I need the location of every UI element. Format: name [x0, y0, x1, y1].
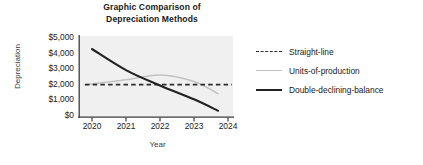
legend-item-double-declining-balance: Double-declining-balance [256, 82, 421, 98]
x-tick-label: 2024 [208, 121, 248, 131]
x-axis-title: Year [80, 140, 235, 149]
legend-item-straight-line: Straight-line [256, 44, 421, 60]
depreciation-chart-figure: Graphic Comparison of Depreciation Metho… [0, 0, 423, 165]
light-line-swatch-icon [256, 66, 282, 76]
legend-label: Units-of-production [289, 66, 360, 76]
dashed-line-swatch-icon [256, 47, 282, 57]
legend-label: Straight-line [289, 47, 334, 57]
legend-label: Double-declining-balance [289, 85, 384, 95]
plot-background [80, 36, 233, 117]
solid-line-swatch-icon [256, 85, 282, 95]
chart-legend: Straight-line Units-of-production Double… [256, 44, 421, 101]
legend-item-units-of-production: Units-of-production [256, 63, 421, 79]
